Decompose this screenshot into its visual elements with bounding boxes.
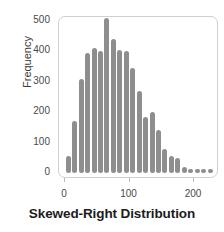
y-tick-label: 400 [24, 45, 50, 55]
histogram-bar [162, 149, 167, 173]
histogram-bar [72, 121, 77, 173]
histogram-bar [188, 169, 193, 173]
x-axis-tick-labels: 0100200 [0, 182, 224, 198]
histogram-bar [201, 169, 206, 173]
x-tick-mark [129, 178, 130, 182]
histogram-figure: Frequency 0100200300400500 0100200 Skewe… [0, 0, 224, 232]
histogram-bar [117, 50, 122, 173]
histogram-bar [104, 18, 109, 173]
histogram-bar [195, 169, 200, 173]
histogram-bar [124, 51, 129, 173]
histogram-bars [59, 17, 218, 178]
chart-title: Skewed-Right Distribution [0, 206, 224, 221]
histogram-bar [79, 79, 84, 173]
histogram-bar [182, 167, 187, 173]
y-tick-label: 100 [24, 137, 50, 147]
histogram-bar [66, 156, 71, 173]
histogram-bar [169, 156, 174, 173]
x-tick-label: 0 [44, 188, 84, 199]
y-tick-label: 300 [24, 76, 50, 86]
histogram-bar [98, 51, 103, 173]
x-tick-label: 200 [173, 188, 213, 199]
y-tick-label: 200 [24, 106, 50, 116]
x-tick-label: 100 [109, 188, 149, 199]
histogram-bar [208, 169, 213, 173]
histogram-bar [143, 117, 148, 173]
x-tick-mark [193, 178, 194, 182]
histogram-bar [137, 91, 142, 173]
histogram-bar [130, 68, 135, 173]
histogram-bar [85, 53, 90, 173]
histogram-bar [92, 48, 97, 173]
histogram-bar [175, 158, 180, 173]
x-tick-mark [64, 178, 65, 182]
y-tick-label: 500 [24, 15, 50, 25]
histogram-bar [111, 39, 116, 173]
plot-area [58, 16, 218, 178]
histogram-bar [156, 130, 161, 173]
y-tick-label: 0 [24, 167, 50, 177]
histogram-bar [150, 112, 155, 173]
